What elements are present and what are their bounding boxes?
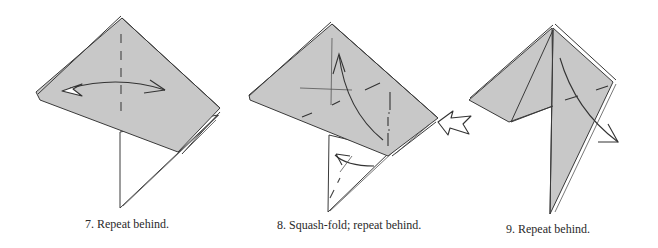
- step-8-figure: [249, 22, 471, 212]
- step-9-caption: 9. Repeat behind.: [506, 222, 590, 237]
- step-9-figure: [469, 24, 618, 214]
- step-7-caption: 7. Repeat behind.: [85, 217, 169, 232]
- step-7-figure: [36, 16, 220, 208]
- push-arrow: [438, 111, 471, 135]
- step-8-caption: 8. Squash-fold; repeat behind.: [277, 218, 421, 233]
- origami-diagram: 7. Repeat behind. 8. Squash-fold; repeat…: [0, 0, 658, 248]
